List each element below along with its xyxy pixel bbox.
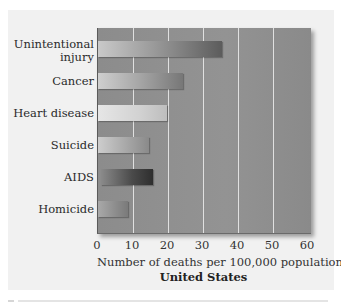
caption-divider — [8, 300, 328, 302]
x-tick-60: 60 — [295, 238, 319, 252]
plot-area — [97, 28, 311, 234]
bar-heart-disease — [98, 105, 167, 121]
x-tick-10: 10 — [120, 238, 144, 252]
gridline-10 — [133, 28, 134, 233]
x-axis-label: Number of deaths per 100,000 population — [97, 255, 310, 269]
x-tick-40: 40 — [225, 238, 249, 252]
bar-cancer — [98, 73, 183, 89]
x-tick-20: 20 — [155, 238, 179, 252]
category-label-cancer: Cancer — [2, 75, 94, 88]
category-label-unintentional-injury: Unintentional injury — [2, 38, 94, 64]
x-tick-50: 50 — [260, 238, 284, 252]
bar-homicide — [98, 201, 128, 217]
category-label-suicide: Suicide — [2, 139, 94, 152]
gridline-40 — [238, 28, 239, 233]
gridline-20 — [168, 28, 169, 233]
gridline-50 — [273, 28, 274, 233]
category-label-heart-disease: Heart disease — [2, 107, 94, 120]
category-label-homicide: Homicide — [2, 203, 94, 216]
bar-aids — [101, 169, 153, 185]
chart-subtitle: United States — [97, 270, 310, 284]
x-tick-30: 30 — [190, 238, 214, 252]
gridline-30 — [203, 28, 204, 233]
x-tick-0: 0 — [85, 238, 109, 252]
label-line-2: injury — [2, 51, 94, 64]
category-label-aids: AIDS — [2, 171, 94, 184]
bar-suicide — [98, 137, 149, 153]
bar-unintentional-injury — [98, 41, 222, 57]
